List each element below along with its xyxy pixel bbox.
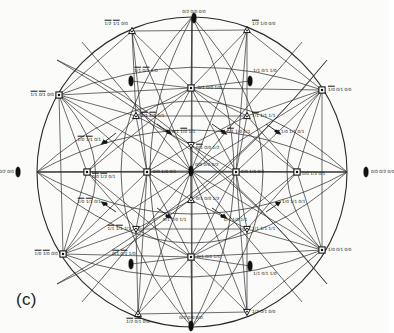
pole-node-n12[interactable] [220, 129, 223, 132]
pole-node-n19[interactable] [144, 169, 150, 175]
pole-node-n34[interactable] [248, 261, 252, 271]
pole-label-n05: 1/1 0/1 1/0 [253, 69, 276, 74]
pole-label-n26: 0/1 1/0 1/1 [163, 218, 186, 223]
pole-label-n11: 0/1 1/0 1/1 [172, 130, 195, 135]
pole-node-n22[interactable] [364, 167, 368, 177]
pole-label-n06: 1/1 0/1 0/0 [31, 93, 54, 98]
pole-label-n19: 0/0 1/0 0/1 [153, 170, 176, 175]
pole-label-n31: 0/1 0/0 1/0 [197, 255, 220, 260]
pole-node-n08[interactable] [319, 87, 325, 93]
pole-node-n31[interactable] [188, 254, 194, 260]
pole-node-n16[interactable] [189, 166, 193, 176]
pole-node-n18[interactable] [84, 169, 90, 175]
pole-label-n35: 1/2 0/1 0/0 [126, 320, 149, 325]
pole-label-n17: 0/0 0/2 0/0 [0, 170, 14, 175]
pole-node-n14[interactable] [104, 140, 107, 143]
pole-node-n01[interactable] [192, 13, 196, 23]
pole-node-n17[interactable] [16, 167, 20, 177]
pole-node-n33[interactable] [129, 259, 133, 269]
pole-node-n13[interactable] [274, 129, 277, 132]
pole-label-n30: 1/0 1/0 0/0 [35, 252, 58, 257]
pole-label-n09: 1/1 1/1 1/1 [141, 114, 164, 119]
pole-node-n36[interactable] [244, 309, 251, 315]
pole-label-n20: 0/0 1/0 0/1 [241, 170, 264, 175]
pole-label-n01: 0/2 0/0 0/0 [182, 10, 205, 15]
pole-label-n32: 1/0 0/1 0/0 [328, 248, 351, 253]
pole-label-n27: 0/1 1/0 1/1 [224, 218, 247, 223]
pole-node-n05[interactable] [248, 76, 252, 86]
pole-label-n13: 1/0 1/1 0/1 [281, 130, 304, 135]
pole-label-n34: 1/1 0/1 1/0 [253, 272, 276, 277]
pole-node-n20[interactable] [233, 169, 239, 175]
pole-label-n15: 0/1 0/0 1/2 [196, 146, 219, 151]
pole-label-n16: 0/0 0/0 0/2 [195, 163, 218, 168]
pole-label-n18: 0/0 1/2 0/1 [92, 175, 115, 180]
pole-label-n03: 1/2 1/0 0/0 [252, 22, 275, 27]
pole-label-n10: 1/1 1/1 1/1 [252, 114, 275, 119]
pole-node-n03[interactable] [244, 26, 251, 32]
pole-label-n24: 1/0 1/1 0/1 [78, 200, 101, 205]
pole-label-n02: 1/2 1/1 0/0 [105, 22, 128, 27]
pole-node-n04[interactable] [129, 76, 133, 86]
pole-label-n29: 1/1 1/1 1/1 [252, 227, 275, 232]
pole-node-n25[interactable] [275, 201, 278, 204]
pole-node-n32[interactable] [319, 247, 325, 253]
pole-label-n21: 0/0 1/2 0/1 [302, 172, 325, 177]
pole-label-n28: 1/1 1/1 1/1 [108, 227, 131, 232]
pole-label-n14: 1/0 1/1 0/1 [78, 138, 101, 143]
pole-node-n06[interactable] [56, 92, 62, 98]
pole-label-n08: 1/0 0/1 0/0 [328, 88, 351, 93]
pole-label-n33: 0/1 0/1 1/0 [112, 252, 135, 257]
pole-label-n04: 1/1 0/1 1/0 [134, 69, 157, 74]
pole-node-n11[interactable] [165, 129, 168, 132]
pole-node-n37[interactable] [189, 321, 193, 331]
pole-label-n36: 1/2 0/1 0/0 [252, 310, 275, 315]
pole-label-n07: 0/1 0/0 1/0 [198, 86, 221, 91]
pole-node-n24[interactable] [104, 202, 107, 205]
figure-caption: (c) [16, 290, 37, 310]
pole-label-n22: 0/0 0/2 0/0 [371, 170, 394, 175]
pole-label-n23: 0/1 0/0 1/2 [196, 197, 219, 202]
pole-node-n21[interactable] [294, 169, 300, 175]
pole-node-n07[interactable] [188, 85, 194, 91]
pole-label-n12: 0/1 1/0 1/1 [227, 130, 250, 135]
pole-label-n25: 1/0 1/1 0/1 [282, 200, 305, 205]
pole-label-n37: 0/2 0/0 0/0 [179, 316, 202, 321]
pole-node-n30[interactable] [60, 251, 66, 257]
